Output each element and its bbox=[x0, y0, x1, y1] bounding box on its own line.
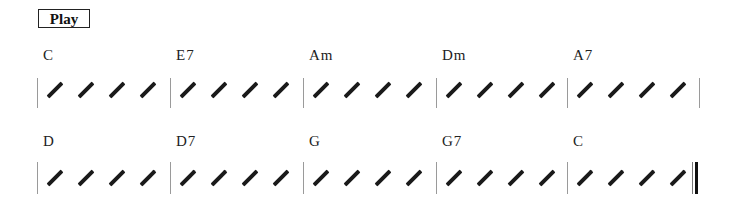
beat-slash-icon bbox=[211, 170, 228, 187]
beat-slash-icon bbox=[446, 82, 463, 99]
beat-slash-icon bbox=[242, 170, 259, 187]
beat-slash-icon bbox=[508, 82, 525, 99]
beat-slash-icon bbox=[242, 82, 259, 99]
beat-slash-icon bbox=[140, 82, 157, 99]
chord-label: Am bbox=[309, 47, 334, 64]
beat-slash-icon bbox=[344, 170, 361, 187]
chord-label: D7 bbox=[176, 133, 196, 150]
beat-slash-icon bbox=[109, 170, 126, 187]
chord-label: G bbox=[309, 133, 321, 150]
barline bbox=[303, 162, 304, 194]
beat-slash-icon bbox=[313, 82, 330, 99]
barline bbox=[567, 162, 568, 194]
beat-slash-icon bbox=[608, 82, 625, 99]
beat-slash-icon bbox=[180, 170, 197, 187]
beat-slash-icon bbox=[344, 82, 361, 99]
beat-slash-icon bbox=[109, 82, 126, 99]
beat-slash-icon bbox=[539, 170, 556, 187]
barline bbox=[303, 78, 304, 108]
chord-label: C bbox=[43, 47, 54, 64]
barline bbox=[37, 162, 38, 194]
chord-label: Dm bbox=[442, 47, 467, 64]
beat-slash-icon bbox=[670, 170, 687, 187]
beat-slash-icon bbox=[406, 82, 423, 99]
beat-slash-icon bbox=[406, 170, 423, 187]
beat-slash-icon bbox=[539, 82, 556, 99]
beat-slash-icon bbox=[608, 170, 625, 187]
end-barline bbox=[699, 78, 700, 108]
beat-slash-icon bbox=[47, 82, 64, 99]
beat-slash-icon bbox=[639, 82, 656, 99]
beat-slash-icon bbox=[273, 82, 290, 99]
beat-slash-icon bbox=[577, 82, 594, 99]
beat-slash-icon bbox=[375, 170, 392, 187]
beat-slash-icon bbox=[577, 170, 594, 187]
barline bbox=[567, 78, 568, 108]
beat-slash-icon bbox=[313, 170, 330, 187]
chord-label: C bbox=[573, 133, 584, 150]
beat-slash-icon bbox=[477, 82, 494, 99]
beat-slash-icon bbox=[639, 170, 656, 187]
barline bbox=[436, 78, 437, 108]
beat-slash-icon bbox=[180, 82, 197, 99]
beat-slash-icon bbox=[78, 82, 95, 99]
beat-slash-icon bbox=[508, 170, 525, 187]
chord-label: E7 bbox=[176, 47, 195, 64]
barline bbox=[170, 162, 171, 194]
final-barline-thick bbox=[695, 162, 698, 194]
beat-slash-icon bbox=[446, 170, 463, 187]
chord-label: G7 bbox=[442, 133, 462, 150]
beat-slash-icon bbox=[670, 82, 687, 99]
beat-slash-icon bbox=[47, 170, 64, 187]
chord-label: A7 bbox=[573, 47, 593, 64]
beat-slash-icon bbox=[211, 82, 228, 99]
barline bbox=[436, 162, 437, 194]
beat-slash-icon bbox=[477, 170, 494, 187]
final-barline-thin bbox=[692, 162, 693, 194]
barline bbox=[170, 78, 171, 108]
beat-slash-icon bbox=[78, 170, 95, 187]
barline bbox=[37, 78, 38, 108]
beat-slash-icon bbox=[140, 170, 157, 187]
beat-slash-icon bbox=[273, 170, 290, 187]
beat-slash-icon bbox=[375, 82, 392, 99]
play-button[interactable]: Play bbox=[38, 9, 90, 28]
chord-label: D bbox=[43, 133, 55, 150]
